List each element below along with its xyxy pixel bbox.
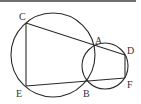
geometry-diagram: C A D E B F — [0, 0, 141, 104]
point-label-a: A — [95, 35, 103, 46]
segment-cd — [26, 23, 125, 55]
segment-ef — [26, 78, 125, 86]
point-label-d: D — [127, 45, 134, 56]
point-label-e: E — [16, 88, 22, 99]
small-circle — [82, 43, 128, 89]
point-label-c: C — [19, 11, 26, 22]
point-label-b: B — [83, 88, 90, 99]
point-label-f: F — [127, 79, 133, 90]
large-circle — [11, 13, 95, 97]
